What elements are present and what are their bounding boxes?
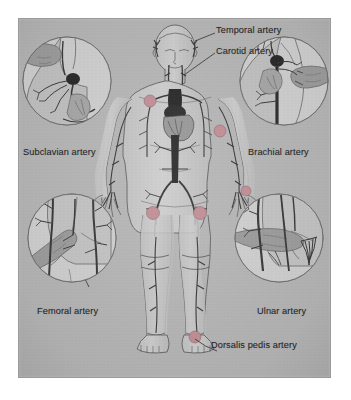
label-dorsalis-pedis-artery: Dorsalis pedis artery xyxy=(211,340,297,351)
label-femoral-artery: Femoral artery xyxy=(37,306,98,317)
label-ulnar-artery: Ulnar artery xyxy=(257,306,306,317)
pulse-point-femoral-right xyxy=(194,207,207,220)
illustration-artwork xyxy=(19,19,331,378)
pulse-point-subclavian xyxy=(144,95,156,107)
inset-femoral xyxy=(28,194,116,283)
pulse-point-radial xyxy=(241,186,251,196)
illustration-panel: Temporal artery Carotid artery Subclavia… xyxy=(18,18,331,378)
label-brachial-artery: Brachial artery xyxy=(248,147,309,158)
label-subclavian-artery: Subclavian artery xyxy=(23,147,96,158)
body-figure xyxy=(93,25,257,353)
pulse-point-femoral-left xyxy=(147,207,160,220)
pulse-point-brachial xyxy=(214,125,226,137)
arterial-pulse-points-figure: Temporal artery Carotid artery Subclavia… xyxy=(0,0,351,400)
pulse-point-dorsalis-pedis xyxy=(189,331,201,343)
inset-ulnar xyxy=(235,194,323,282)
head-outline xyxy=(153,25,197,73)
label-temporal-artery: Temporal artery xyxy=(216,25,281,36)
leader-line-temporal xyxy=(195,33,215,41)
label-carotid-artery: Carotid artery xyxy=(216,46,273,57)
inset-subclavian xyxy=(23,37,111,127)
legs-outline xyxy=(137,215,214,353)
